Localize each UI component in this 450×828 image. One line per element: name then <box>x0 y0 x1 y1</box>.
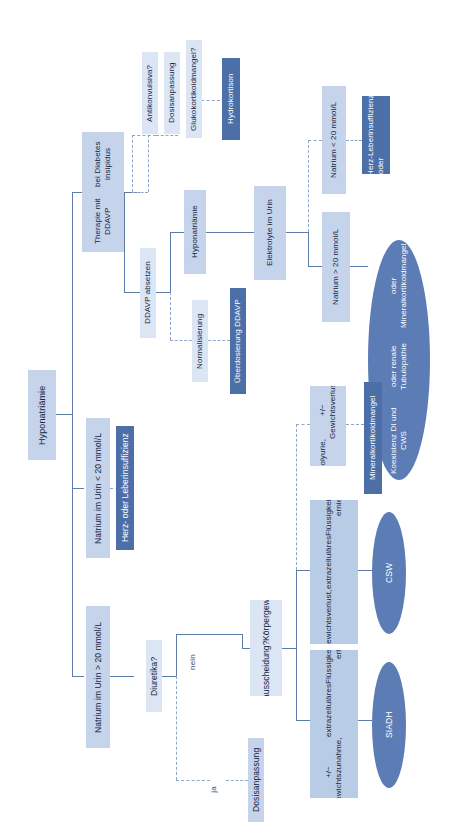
node-hydrokortison[interactable]: Hydrokortison <box>222 58 240 140</box>
connector-urinausscheidung-out <box>282 648 296 649</box>
node-label-line1: Urinausscheidung? <box>261 641 271 696</box>
node-label-line2: Leberinsuffizienz <box>366 96 386 156</box>
connector-absetzen-out <box>156 292 170 293</box>
node-label: Natrium im Urin > 20 mmol/L <box>93 621 103 732</box>
node-label-line2: +/− Gewichtszunahme, <box>324 737 344 798</box>
node-label: Herz- oder Leberinsuffizienz <box>120 434 130 543</box>
node-label: Normalisierung <box>195 313 205 368</box>
dashed-ja-run <box>176 780 210 781</box>
node-label: Glukokortikoidmangel? <box>189 47 199 130</box>
node-hyponatriaemie-root[interactable]: Hyponatriämie <box>28 370 56 460</box>
edge-label-nein: nein <box>188 654 197 670</box>
connector-trunk-main <box>72 192 73 676</box>
dashed-natrium-lt20-riser <box>308 140 309 232</box>
connector-trunk-to-na-gt20 <box>72 676 84 677</box>
node-label: Antikonvulsiva? <box>145 64 155 121</box>
node-glukokortikoidmangel[interactable]: Glukokortikoidmangel? <box>186 40 202 138</box>
node-label-line2: bei Diabetes insipidus <box>93 135 113 194</box>
connector-root-out <box>56 414 72 415</box>
node-siadh-ellipse[interactable]: SIADH <box>372 662 406 788</box>
node-label: DDAVP absetzen <box>143 262 153 325</box>
dashed-gluko-to-therapie <box>132 192 148 193</box>
node-label-line1: Herz- oder <box>366 156 386 174</box>
dashed-normalisierung-riser <box>170 292 171 340</box>
node-urinausscheidung-koerpergewicht[interactable]: Urinausscheidung? Körpergewicht? <box>250 600 282 696</box>
connector-absetzen-split <box>170 232 171 292</box>
node-label: Hydrokortison <box>226 74 236 125</box>
node-natrium-lt20[interactable]: Natrium < 20 mmol/L <box>322 86 346 194</box>
node-diuretika[interactable]: Diuretika? <box>146 640 162 712</box>
node-label-line1: Koexistenz DI und CWS <box>389 404 409 477</box>
node-natrium-gt20[interactable]: Natrium > 20 mmol/L <box>322 212 350 322</box>
dashed-therapie-to-antikonvulsiva <box>132 135 156 136</box>
node-label-line3: extrazelluläres <box>324 536 344 589</box>
connector-naurin-gt20-to-diuretika <box>110 676 134 677</box>
connector-therapie-split <box>124 192 125 292</box>
dashed-to-natrium-lt20 <box>308 140 322 141</box>
connector-nein-run <box>176 634 242 635</box>
node-label: Natrium < 20 mmol/L <box>329 102 339 178</box>
node-label-line2: Körpergewicht? <box>261 600 271 641</box>
node-natrium-im-urin-gt20[interactable]: Natrium im Urin > 20 mmol/L <box>86 606 110 748</box>
node-label: Mineralkortikoidmangel <box>368 396 378 480</box>
node-label-line1: Therapie mit DDAVP <box>93 194 113 249</box>
node-label: Elektrolyte im Urin <box>265 200 275 267</box>
node-label: Dosisanpassung <box>251 748 261 812</box>
node-ddavp-absetzen[interactable]: DDAVP absetzen <box>140 248 156 338</box>
node-label: Hyponatriämie <box>37 385 48 444</box>
node-hyponatriaemie-2[interactable]: Hyponatriämie <box>184 190 206 274</box>
node-polyurie-gewichtsverlust[interactable]: Polyurie, +/− Gewichtsverlust <box>310 386 346 466</box>
node-label: CSW <box>384 563 394 583</box>
connector-absetzen-to-hyponat <box>170 232 184 233</box>
dashed-antikonvulsiva-riser <box>132 135 133 192</box>
connector-trunk-to-therapie <box>72 192 82 193</box>
dashed-to-polyurie-gv <box>296 424 310 425</box>
connector-nein-to-urinausscheidung <box>242 648 250 649</box>
node-herz-leber-insuffizienz-1[interactable]: Herz- oder Leberinsuffizienz <box>362 96 390 174</box>
connector-elektrolyte-out <box>286 232 308 233</box>
node-therapie-mit-ddavp[interactable]: Therapie mit DDAVP bei Diabetes insipidu… <box>82 132 124 252</box>
connector-hyponat2-to-elektrolyte <box>206 232 254 233</box>
flowchart-canvas: nein ja Hyponatriämie Therapie mit DDAVP… <box>0 0 450 828</box>
node-label: Überdosierung DDAVP <box>233 299 243 383</box>
dashed-polyurie-gv-to-mineralo <box>346 424 364 425</box>
node-elektrolyte-im-urin[interactable]: Elektrolyte im Urin <box>254 186 286 280</box>
connector-polyurie-to-csw <box>358 570 372 571</box>
connector-oligurie-to-siadh <box>358 720 372 721</box>
connector-to-oligurie-siadh <box>296 720 310 721</box>
connector-natrium-gt20-to-koexistenz <box>350 266 368 267</box>
node-label: Hyponatriämie <box>190 206 200 259</box>
dashed-ja-riser <box>176 676 177 780</box>
node-herz-leber-insuffizienz-2[interactable]: Herz- oder Leberinsuffizienz <box>116 426 134 550</box>
node-polyurie-csw-symptome[interactable]: Polyurie, Gewichtsverlust, extrazellulär… <box>310 500 358 644</box>
node-mineralkortikoidmangel[interactable]: Mineralkortikoidmangel <box>364 382 382 494</box>
node-label-line2: Gewichtsverlust, <box>324 589 344 644</box>
node-csw-ellipse[interactable]: CSW <box>372 512 406 634</box>
node-label: Natrium im Urin < 20 mmol/L <box>93 432 103 543</box>
node-natrium-im-urin-lt20[interactable]: Natrium im Urin < 20 mmol/L <box>86 418 110 558</box>
node-ueberdosierung-ddavp[interactable]: Überdosierung DDAVP <box>230 288 246 394</box>
connector-diuretika-nein-riser <box>176 634 177 676</box>
node-label-line1: Polyurie, <box>318 439 338 466</box>
node-dosisanpassung-antikonvulsiva[interactable]: Dosisanpassung <box>164 52 180 134</box>
dashed-antikonvulsiva-to-dosis <box>156 135 178 136</box>
edge-label-ja: ja <box>209 786 218 793</box>
node-antikonvulsiva[interactable]: Antikonvulsiva? <box>142 52 158 134</box>
connector-elektrolyte-split <box>308 232 309 266</box>
connector-therapie-to-absetzen <box>124 292 140 293</box>
dashed-polyurie-gv-riser <box>296 424 297 570</box>
node-label-line3: extrazelluläres <box>324 684 344 737</box>
dashed-ja-to-dosisanpassung <box>226 780 248 781</box>
connector-nein-down <box>242 634 243 648</box>
node-label: SIADH <box>384 712 394 738</box>
node-oligurie-siadh-symptome[interactable]: Oligurie, +/− Gewichtszunahme, extrazell… <box>310 650 358 798</box>
connector-urinausscheidung-split <box>296 570 297 720</box>
connector-to-natrium-gt20 <box>308 266 322 267</box>
node-normalisierung[interactable]: Normalisierung <box>192 300 208 382</box>
node-label: Diuretika? <box>149 656 159 695</box>
node-dosisanpassung-diuretika[interactable]: Dosisanpassung <box>248 738 264 822</box>
node-label-line2: oder renale Tubulopathie <box>389 329 409 404</box>
connector-to-polyurie-csw <box>296 570 310 571</box>
node-label-line2: +/− Gewichtsverlust <box>318 386 338 439</box>
dashed-absetzen-to-normalisierung <box>170 340 192 341</box>
